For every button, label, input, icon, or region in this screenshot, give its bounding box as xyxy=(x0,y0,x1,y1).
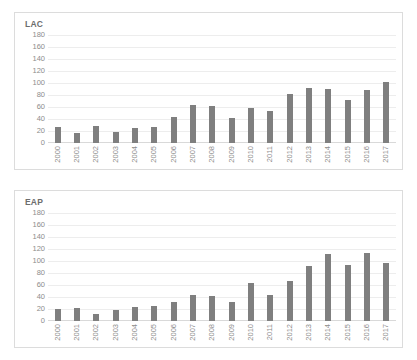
x-tick-label: 2003 xyxy=(112,146,120,163)
x-tick-label: 2017 xyxy=(382,146,390,163)
bar[interactable] xyxy=(151,127,157,143)
bar[interactable] xyxy=(171,302,177,321)
x-tick-label: 2013 xyxy=(305,146,313,163)
x-tick-label: 2007 xyxy=(189,324,197,341)
bar-slot xyxy=(164,213,183,321)
bar[interactable] xyxy=(113,132,119,143)
x-tick-slot: 2006 xyxy=(164,145,183,171)
bar-slot xyxy=(357,213,376,321)
x-tick-slot: 2008 xyxy=(203,323,222,349)
y-tick-label: 180 xyxy=(32,31,45,39)
bar[interactable] xyxy=(229,302,235,321)
x-tick-slot: 2004 xyxy=(125,323,144,349)
x-tick-slot: 2003 xyxy=(106,145,125,171)
bar-slot xyxy=(125,213,144,321)
y-tick-label: 120 xyxy=(32,245,45,253)
x-tick-label: 2008 xyxy=(209,324,217,341)
y-axis-labels-eap: 180160140120100806040200 xyxy=(21,213,45,321)
bar[interactable] xyxy=(113,310,119,321)
bar[interactable] xyxy=(267,111,273,143)
bar[interactable] xyxy=(74,133,80,143)
bar[interactable] xyxy=(325,254,331,321)
bar[interactable] xyxy=(93,314,99,321)
x-tick-label: 2005 xyxy=(151,146,159,163)
x-tick-label: 2006 xyxy=(170,324,178,341)
x-tick-slot: 2010 xyxy=(241,323,260,349)
bar[interactable] xyxy=(267,295,273,321)
bar[interactable] xyxy=(132,307,138,321)
x-tick-slot: 2007 xyxy=(183,323,202,349)
x-tick-label: 2008 xyxy=(209,146,217,163)
x-tick-label: 2006 xyxy=(170,146,178,163)
bar[interactable] xyxy=(383,82,389,143)
bar-slot xyxy=(203,213,222,321)
x-tick-slot: 2014 xyxy=(319,323,338,349)
x-tick-label: 2009 xyxy=(228,146,236,163)
bar-slot xyxy=(319,213,338,321)
y-tick-label: 80 xyxy=(37,269,45,277)
y-tick-label: 0 xyxy=(41,139,45,147)
x-tick-slot: 2014 xyxy=(319,145,338,171)
bar-series-eap xyxy=(48,213,396,321)
bar-slot xyxy=(222,213,241,321)
bar[interactable] xyxy=(209,296,215,321)
bar-slot xyxy=(261,213,280,321)
chart-page: LAC 180160140120100806040200 20002001200… xyxy=(0,0,417,360)
x-tick-slot: 2000 xyxy=(48,145,67,171)
y-tick-label: 100 xyxy=(32,257,45,265)
bar[interactable] xyxy=(209,106,215,143)
bar[interactable] xyxy=(345,265,351,321)
bar[interactable] xyxy=(306,88,312,143)
bar[interactable] xyxy=(287,281,293,321)
y-tick-label: 60 xyxy=(37,281,45,289)
x-tick-slot: 2003 xyxy=(106,323,125,349)
bar[interactable] xyxy=(55,309,61,321)
y-tick-label: 40 xyxy=(37,293,45,301)
y-axis-labels-lac: 180160140120100806040200 xyxy=(21,35,45,143)
bar-slot xyxy=(87,35,106,143)
x-tick-label: 2012 xyxy=(286,146,294,163)
bar-slot xyxy=(280,213,299,321)
bar-slot xyxy=(48,35,67,143)
x-tick-slot: 2010 xyxy=(241,145,260,171)
x-tick-label: 2014 xyxy=(325,324,333,341)
x-tick-slot: 2000 xyxy=(48,323,67,349)
bar-slot xyxy=(377,213,396,321)
y-tick-label: 160 xyxy=(32,43,45,51)
bar-slot xyxy=(261,35,280,143)
x-tick-label: 2015 xyxy=(344,146,352,163)
bar[interactable] xyxy=(345,100,351,143)
bar[interactable] xyxy=(132,128,138,143)
bar[interactable] xyxy=(55,127,61,143)
x-tick-slot: 2012 xyxy=(280,323,299,349)
x-tick-slot: 2015 xyxy=(338,323,357,349)
bar[interactable] xyxy=(325,89,331,143)
bar[interactable] xyxy=(229,118,235,143)
bar[interactable] xyxy=(383,263,389,321)
x-tick-label: 2002 xyxy=(93,324,101,341)
bar[interactable] xyxy=(171,117,177,143)
x-tick-label: 2004 xyxy=(131,146,139,163)
bar[interactable] xyxy=(364,90,370,143)
y-tick-label: 0 xyxy=(41,317,45,325)
bar[interactable] xyxy=(190,105,196,143)
x-tick-slot: 2004 xyxy=(125,145,144,171)
bar[interactable] xyxy=(93,126,99,143)
bar[interactable] xyxy=(190,295,196,321)
plot-area-lac xyxy=(48,35,396,143)
bar[interactable] xyxy=(151,306,157,321)
bar-slot xyxy=(183,213,202,321)
bar[interactable] xyxy=(306,266,312,321)
x-tick-slot: 2012 xyxy=(280,145,299,171)
bar[interactable] xyxy=(287,94,293,143)
bar-slot xyxy=(357,35,376,143)
x-tick-label: 2011 xyxy=(267,324,275,340)
y-tick-label: 140 xyxy=(32,233,45,241)
x-tick-label: 2012 xyxy=(286,324,294,341)
bar[interactable] xyxy=(248,283,254,321)
bar-slot xyxy=(222,35,241,143)
bar[interactable] xyxy=(248,108,254,143)
bar-slot xyxy=(280,35,299,143)
bar[interactable] xyxy=(74,308,80,321)
bar[interactable] xyxy=(364,253,370,321)
